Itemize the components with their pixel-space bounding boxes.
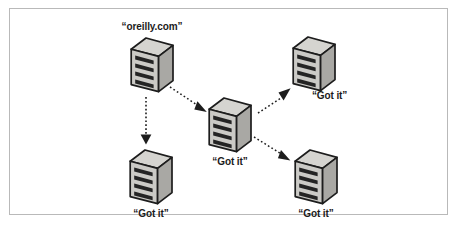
node-center-server[interactable]: “Got it”: [207, 96, 253, 154]
server-icon: [291, 35, 337, 93]
figure-frame: “oreilly.com” “Got it” “Got it”: [0, 0, 459, 228]
node-bottom-left-server[interactable]: “Got it”: [128, 148, 174, 206]
server-icon: [129, 36, 175, 94]
node-label-bottom-left-server: “Got it”: [133, 209, 168, 219]
node-top-right-server[interactable]: “Got it”: [291, 35, 337, 93]
node-label-center-server: “Got it”: [212, 157, 247, 167]
node-label-origin-server: “oreilly.com”: [122, 22, 183, 32]
server-icon: [128, 148, 174, 206]
node-origin-server[interactable]: “oreilly.com”: [129, 36, 175, 94]
node-label-bottom-right-server: “Got it”: [298, 209, 333, 219]
node-bottom-right-server[interactable]: “Got it”: [293, 148, 339, 206]
node-label-top-right-server: “Got it”: [312, 91, 347, 101]
server-icon: [293, 148, 339, 206]
server-icon: [207, 96, 253, 154]
